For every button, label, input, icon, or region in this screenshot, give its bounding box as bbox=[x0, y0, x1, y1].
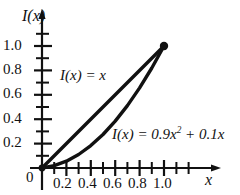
x-tick-label-1.0-text: 1.0 bbox=[153, 175, 172, 191]
y-tick-label-0.6: 0.6 bbox=[3, 86, 22, 101]
x-tick-label-0.4-text: 0.4 bbox=[78, 175, 97, 191]
linear-curve-label-text: I(x) = x bbox=[60, 67, 106, 83]
y-tick-label-1.0: 1.0 bbox=[3, 38, 22, 53]
y-tick-label-0.2: 0.2 bbox=[3, 135, 22, 150]
y-tick-label-0.6-text: 0.6 bbox=[3, 85, 22, 101]
y-axis-label-text: I(x) bbox=[22, 7, 45, 24]
origin-label: 0 bbox=[26, 170, 34, 185]
x-tick-label-0.6: 0.6 bbox=[103, 176, 122, 191]
endpoint-marker bbox=[160, 42, 168, 50]
curve-linear bbox=[42, 46, 164, 168]
x-tick-label-1.0: 1.0 bbox=[153, 176, 172, 191]
x-axis-label: x bbox=[205, 172, 212, 188]
quadratic-curve-label-prefix: I(x) = 0.9 bbox=[112, 126, 170, 142]
y-tick-label-0.8: 0.8 bbox=[3, 62, 22, 77]
quadratic-curve-label: I(x) = 0.9x2 + 0.1x bbox=[112, 126, 224, 142]
x-axis-arrow bbox=[211, 164, 221, 171]
linear-curve-label: I(x) = x bbox=[60, 68, 106, 83]
quadratic-curve-label-variable: x bbox=[170, 126, 177, 142]
x-axis-label-text: x bbox=[205, 171, 212, 188]
y-tick-label-0.4-text: 0.4 bbox=[3, 110, 22, 126]
quadratic-curve-label-suffix: + 0.1x bbox=[181, 126, 224, 142]
y-tick-label-1.0-text: 1.0 bbox=[3, 37, 22, 53]
x-tick-label-0.8-text: 0.8 bbox=[128, 175, 147, 191]
x-tick-label-0.4: 0.4 bbox=[78, 176, 97, 191]
origin-label-text: 0 bbox=[26, 169, 34, 185]
origin-point-marker bbox=[39, 165, 46, 172]
y-axis-label: I(x) bbox=[22, 8, 45, 24]
chart-figure: I(x) x 0 1.0 0.8 0.6 0.4 0.2 0.2 0.4 0.6… bbox=[0, 0, 240, 195]
chart-canvas bbox=[0, 0, 240, 195]
x-tick-label-0.8: 0.8 bbox=[128, 176, 147, 191]
x-tick-label-0.2: 0.2 bbox=[53, 176, 72, 191]
y-tick-label-0.8-text: 0.8 bbox=[3, 61, 22, 77]
y-tick-label-0.4: 0.4 bbox=[3, 111, 22, 126]
x-tick-label-0.2-text: 0.2 bbox=[53, 175, 72, 191]
x-tick-label-0.6-text: 0.6 bbox=[103, 175, 122, 191]
y-tick-label-0.2-text: 0.2 bbox=[3, 134, 22, 150]
